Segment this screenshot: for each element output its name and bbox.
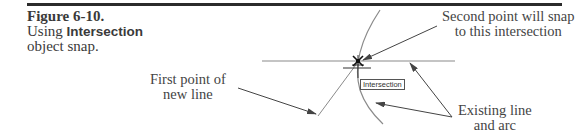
snap-tooltip: Intersection [360, 79, 405, 90]
callout-existing-line1: Existing line [458, 103, 532, 118]
leader-first-point [238, 88, 316, 114]
callout-first-line1: First point of [150, 72, 226, 87]
leader-existing-line [410, 63, 452, 117]
new-line [318, 62, 358, 116]
callout-existing-line2: and arc [458, 118, 532, 133]
callout-existing: Existing line and arc [458, 103, 532, 133]
callout-first-point: First point of new line [150, 72, 226, 102]
existing-arc [358, 10, 384, 124]
callout-second-point: Second point will snap to this intersect… [442, 9, 575, 39]
callout-first-line2: new line [150, 87, 226, 102]
leader-existing-arc [376, 103, 452, 117]
leader-second-point [363, 26, 437, 60]
callout-second-line2: to this intersection [442, 24, 575, 39]
callout-second-line1: Second point will snap [442, 9, 575, 24]
